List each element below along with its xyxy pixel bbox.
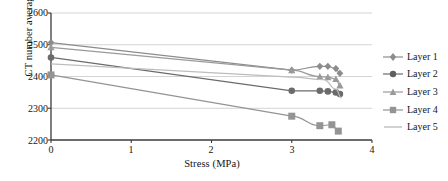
legend-label: Layer 4 (404, 105, 438, 115)
legend-item-layer-3[interactable]: Layer 3 (382, 83, 446, 101)
plot-area (0, 0, 448, 181)
legend-marker-line-icon (382, 119, 404, 135)
legend-item-layer-4[interactable]: Layer 4 (382, 101, 446, 119)
legend-label: Layer 2 (404, 69, 438, 79)
legend: Layer 1 Layer 2 Layer 3 Layer 4 Layer 5 (382, 48, 446, 136)
legend-marker-diamond-icon (382, 49, 404, 65)
legend-marker-circle-icon (382, 66, 404, 82)
legend-marker-triangle-icon (382, 84, 404, 100)
legend-label: Layer 5 (404, 122, 438, 132)
legend-label: Layer 3 (404, 87, 438, 97)
chart-container: CT number average value 2600 2500 2400 2… (0, 0, 448, 181)
legend-item-layer-2[interactable]: Layer 2 (382, 66, 446, 84)
legend-item-layer-1[interactable]: Layer 1 (382, 48, 446, 66)
legend-label: Layer 1 (404, 52, 438, 62)
series-lines (47, 39, 343, 135)
axis-lines (48, 13, 372, 143)
legend-item-layer-5[interactable]: Layer 5 (382, 118, 446, 136)
legend-marker-square-icon (382, 102, 404, 118)
